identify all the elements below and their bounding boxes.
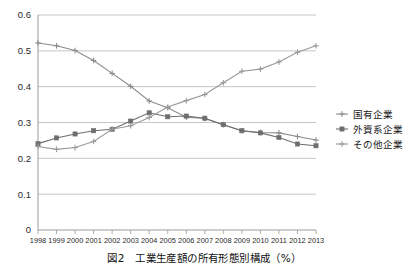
series-marker	[184, 114, 188, 118]
legend-item-label: その他企業	[353, 139, 403, 150]
legend-item-2[interactable]: 外資系企業	[336, 124, 403, 135]
gridlines	[38, 15, 316, 194]
legend-item-1[interactable]: 国有企業	[336, 109, 393, 120]
series-marker	[54, 136, 58, 140]
legend-marker-icon	[340, 127, 344, 131]
y-tick-label: 0.2	[18, 153, 31, 164]
series-marker	[147, 111, 151, 115]
y-axis-tick-labels: 00.10.20.30.40.50.6	[18, 9, 31, 235]
series-marker	[73, 132, 77, 136]
y-tick-label: 0	[26, 224, 31, 235]
figure-caption: 図2 工業生産額の所有形態別構成（%）	[0, 250, 409, 265]
y-tick-label: 0.4	[18, 81, 31, 92]
axes	[38, 15, 316, 234]
series-line	[38, 113, 316, 146]
figure-container: 00.10.20.30.40.50.6 19981999200020012002…	[0, 0, 409, 276]
series-marker	[221, 123, 225, 127]
series-2	[36, 111, 318, 148]
x-tick-label: 2012	[289, 236, 305, 245]
series-line	[38, 46, 316, 150]
series-marker	[92, 129, 96, 133]
x-tick-label: 2007	[197, 236, 213, 245]
chart-plot-area: 00.10.20.30.40.50.6 19981999200020012002…	[0, 0, 409, 248]
y-tick-label: 0.5	[18, 45, 31, 56]
y-tick-label: 0.6	[18, 9, 31, 20]
chart-legend: 国有企業外資系企業その他企業	[336, 109, 403, 150]
x-tick-label: 2001	[85, 236, 101, 245]
series-marker	[203, 116, 207, 120]
series-marker	[314, 144, 318, 148]
x-tick-label: 2002	[104, 236, 120, 245]
y-tick-label: 0.1	[18, 189, 31, 200]
x-tick-label: 2006	[178, 236, 194, 245]
legend-item-label: 国有企業	[353, 109, 393, 120]
x-axis-tick-labels: 1998199920002001200220032004200520062007…	[30, 236, 324, 245]
x-tick-label: 2013	[308, 236, 324, 245]
data-series-group	[35, 40, 319, 152]
x-tick-label: 2008	[215, 236, 231, 245]
x-tick-label: 2010	[252, 236, 268, 245]
y-tick-label: 0.3	[18, 117, 31, 128]
x-tick-label: 2005	[160, 236, 176, 245]
x-tick-label: 1999	[48, 236, 64, 245]
series-marker	[240, 129, 244, 133]
x-tick-label: 2004	[141, 236, 157, 245]
series-marker	[277, 135, 281, 139]
line-chart: 00.10.20.30.40.50.6 19981999200020012002…	[0, 0, 409, 248]
legend-item-3[interactable]: その他企業	[336, 139, 403, 150]
x-tick-label: 2003	[122, 236, 138, 245]
series-marker	[295, 142, 299, 146]
x-tick-label: 1998	[30, 236, 46, 245]
x-tick-label: 2011	[271, 236, 287, 245]
series-marker	[258, 131, 262, 135]
legend-item-label: 外資系企業	[353, 124, 403, 135]
series-3	[35, 43, 319, 152]
x-tick-label: 2009	[234, 236, 250, 245]
x-tick-label: 2000	[67, 236, 83, 245]
series-line	[38, 43, 316, 140]
series-marker	[129, 119, 133, 123]
series-1	[35, 40, 319, 143]
series-marker	[166, 115, 170, 119]
